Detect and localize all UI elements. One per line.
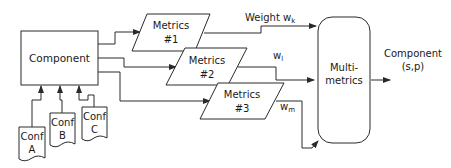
metrics-3-box: Metrics #3 — [200, 83, 284, 119]
conf-c-document: Conf C — [82, 107, 107, 141]
metrics-2-box: Metrics #2 — [166, 48, 247, 85]
weight-l-label: wl — [273, 50, 283, 63]
metrics-3-label-2: #3 — [235, 103, 250, 114]
component-to-metrics2-arrow — [98, 58, 176, 67]
output-label-1: Component — [384, 48, 442, 59]
conf-b-document: Conf B — [50, 113, 75, 147]
conf-c-label-2: C — [91, 124, 98, 135]
component-box: Component — [21, 31, 98, 85]
metrics-1-box: Metrics #1 — [132, 14, 210, 51]
conf-a-arrow — [32, 86, 41, 127]
multi-metrics-box: Multi- metrics — [318, 17, 370, 143]
conf-a-label-1: Conf — [21, 131, 44, 142]
weight-k-label: Weight wk — [245, 12, 296, 25]
component-to-metrics1-arrow — [98, 32, 140, 44]
conf-c-label-1: Conf — [83, 111, 106, 122]
metrics1-to-multimetrics-arrow — [204, 26, 316, 33]
conf-a-document: Conf A — [19, 127, 45, 161]
multi-metrics-label-1: Multi- — [330, 62, 358, 73]
metrics-3-label-1: Metrics — [224, 89, 260, 100]
output-label-2: (s,p) — [402, 61, 425, 72]
conf-c-arrow — [79, 86, 94, 107]
conf-b-label-2: B — [59, 130, 66, 141]
multi-metrics-diagram: Component Conf A Conf B Conf C Metrics #… — [0, 0, 451, 168]
metrics-2-label-2: #2 — [200, 69, 215, 80]
component-label: Component — [29, 52, 90, 64]
weight-m-label: wm — [280, 101, 295, 114]
metrics2-to-multimetrics-arrow — [238, 67, 314, 80]
conf-a-label-2: A — [29, 144, 36, 155]
metrics-2-label-1: Metrics — [189, 55, 225, 66]
multi-metrics-label-2: metrics — [325, 75, 362, 86]
conf-b-arrow — [60, 86, 62, 113]
metrics-1-label-2: #1 — [164, 34, 179, 45]
conf-b-label-1: Conf — [51, 117, 74, 128]
metrics-1-label-1: Metrics — [153, 20, 189, 31]
